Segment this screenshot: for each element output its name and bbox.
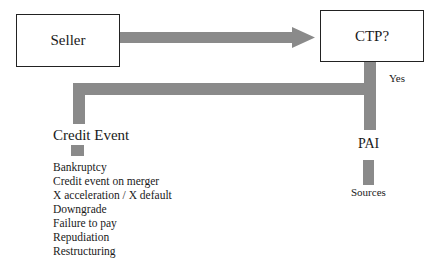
seller-node: Seller	[16, 14, 120, 67]
credit-event-connector-stub	[71, 145, 84, 156]
credit-event-item: Failure to pay	[53, 216, 172, 230]
arrow-shape	[120, 27, 315, 48]
ctp-down-connector	[364, 62, 376, 130]
credit-event-node: Credit Event	[53, 127, 129, 144]
sources-node: Sources	[351, 186, 386, 198]
credit-event-item: Bankruptcy	[53, 160, 172, 174]
pai-to-sources-connector	[363, 160, 374, 185]
ctp-label: CTP?	[355, 28, 389, 45]
credit-event-item: Repudiation	[53, 230, 172, 244]
credit-event-item: Credit event on merger	[53, 174, 172, 188]
credit-event-drop-connector	[73, 95, 85, 124]
yes-edge-label: Yes	[389, 72, 405, 84]
ctp-to-credit-event-connector	[73, 83, 364, 95]
credit-event-item: Downgrade	[53, 202, 172, 216]
credit-event-list: Bankruptcy Credit event on merger X acce…	[53, 160, 172, 258]
ctp-decision-node: CTP?	[320, 10, 424, 62]
credit-event-item: X acceleration / X default	[53, 188, 172, 202]
pai-node: PAI	[358, 136, 379, 152]
credit-event-item: Restructuring	[53, 244, 172, 258]
seller-label: Seller	[51, 32, 86, 49]
